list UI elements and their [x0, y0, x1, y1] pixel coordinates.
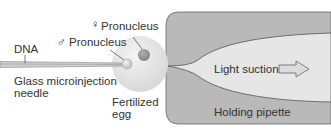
suction-label: Light suction [214, 63, 279, 76]
male-pronucleus [122, 59, 132, 69]
pipette-label: Holding pipette [214, 106, 291, 119]
dna-label: DNA [14, 43, 38, 56]
egg-label: Fertilized egg [112, 96, 159, 120]
needle-label: Glass microinjection needle [14, 75, 117, 99]
female-pronucleus [138, 49, 150, 61]
female-symbol-icon: ♀ [91, 18, 100, 31]
male-pronucleus-label: Pronucleus [69, 36, 127, 49]
female-pronucleus-label: Pronucleus [101, 20, 159, 33]
male-symbol-icon: ♂ [57, 36, 66, 49]
